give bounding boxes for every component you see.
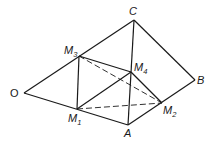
label-m2: M2: [163, 104, 177, 119]
edge-m3-m2: [79, 56, 162, 103]
edge-m3-m4: [79, 56, 131, 72]
tetrahedron-diagram: OABCM1M2M3M4: [0, 0, 215, 145]
edge-m3-m1: [77, 56, 79, 109]
edge-m4-m2: [131, 72, 162, 103]
label-m1: M1: [68, 112, 81, 127]
label-m4: M4: [134, 61, 147, 76]
label-o: O: [10, 87, 19, 99]
edge-m1-m4: [77, 72, 131, 109]
label-c: C: [129, 5, 137, 17]
label-m3: M3: [64, 44, 78, 59]
label-a: A: [123, 127, 131, 139]
edge-m1-m2: [77, 103, 162, 109]
label-b: B: [197, 74, 204, 86]
